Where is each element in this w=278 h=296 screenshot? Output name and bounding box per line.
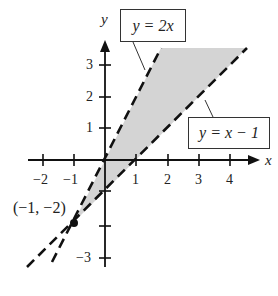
x-tick-label: −2 <box>33 173 48 187</box>
callout-y-x-minus-1: y = x − 1 <box>188 117 270 149</box>
intersection-point <box>70 219 78 227</box>
callout-leader-2x <box>133 42 145 70</box>
x-tick-label: 4 <box>226 173 233 187</box>
x-tick-label: 3 <box>195 173 202 187</box>
y-tick-label: 1 <box>86 121 93 135</box>
point-label: (−1, −2) <box>13 200 66 216</box>
line-y-2x <box>52 48 161 262</box>
y-tick-label: 3 <box>86 58 93 72</box>
y-axis-label: y <box>101 12 108 27</box>
x-axis-label: x <box>265 153 272 168</box>
callout-leader-x1 <box>205 100 213 117</box>
x-tick-label: −1 <box>63 173 78 187</box>
x-axis-arrow <box>248 155 260 165</box>
y-tick-label: −3 <box>76 251 91 265</box>
callout-y-2x: y = 2x <box>120 9 186 42</box>
y-axis-arrow <box>100 40 110 52</box>
x-tick-label: 1 <box>132 173 139 187</box>
x-tick-label: 2 <box>164 173 171 187</box>
y-tick-label: 2 <box>86 90 93 104</box>
